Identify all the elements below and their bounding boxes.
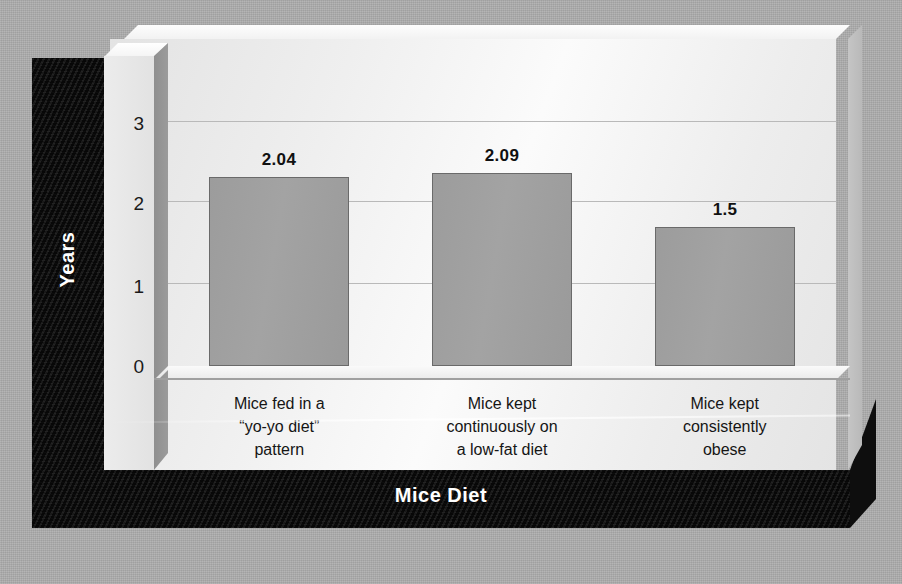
chart-root: Years 3 2 1 0 2.04 2.09 1.5 Mice fed in … (0, 0, 902, 584)
y-axis-title: Years (56, 185, 79, 335)
category-label-2-line3: a low-fat diet (391, 438, 614, 461)
category-label-3-line1: Mice kept (613, 392, 836, 415)
bar-2[interactable] (432, 173, 572, 366)
category-label-3-line3: obese (613, 438, 836, 461)
y-axis-wall: 3 2 1 0 (104, 56, 154, 470)
axis-floor-edge (154, 378, 850, 380)
category-label-2-line1: Mice kept (391, 392, 614, 415)
x-axis-title: Mice Diet (32, 484, 850, 507)
bar-3[interactable] (655, 227, 795, 366)
bar-1[interactable] (209, 177, 349, 366)
category-label-3: Mice kept consistently obese (613, 392, 836, 468)
category-label-1: Mice fed in a “yo-yo diet” pattern (168, 392, 391, 468)
y-axis-title-band: Years (32, 58, 104, 528)
panel-top-bevel (124, 25, 850, 39)
y-tick-1: 1 (110, 276, 144, 298)
y-axis-wall-side (154, 43, 168, 470)
category-label-1-line1: Mice fed in a (168, 392, 391, 415)
category-label-3-line2: consistently (613, 415, 836, 438)
panel-right-bevel (836, 25, 862, 470)
plot-area: 2.04 2.09 1.5 (168, 56, 836, 366)
category-label-1-line3: pattern (168, 438, 391, 461)
y-tick-3: 3 (110, 113, 144, 135)
y-tick-2: 2 (110, 193, 144, 215)
category-labels: Mice fed in a “yo-yo diet” pattern Mice … (168, 392, 836, 468)
y-tick-0: 0 (110, 356, 144, 378)
bar-value-label-1: 2.04 (209, 150, 349, 170)
bar-value-label-2: 2.09 (432, 146, 572, 166)
category-label-2: Mice kept continuously on a low-fat diet (391, 392, 614, 468)
gridline-3 (168, 121, 836, 122)
bar-value-label-3: 1.5 (655, 200, 795, 220)
